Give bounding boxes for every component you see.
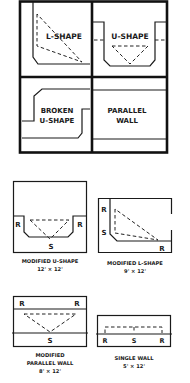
modified-l-shape-plan: R S R MODIFIED L-SHAPE 9' × 12' [99,199,172,275]
u-shape-plan: U-SHAPE [92,22,167,66]
u-counter [14,216,86,237]
kitchen-layouts-diagram: L-SHAPE U-SHAPE BROKEN U-SHAPE PARALLEL … [0,0,190,383]
mark-s: S [47,337,52,345]
mark-s: S [101,229,106,237]
mark-r-left: R [102,337,107,345]
mark-r-right: R [77,221,83,229]
parallel-label-line1: PARALLEL [108,107,147,115]
work-triangle [115,209,158,240]
work-triangle [24,314,76,332]
plan-title: SINGLE WALL [114,355,154,361]
single-wall-plan: R S R SINGLE WALL 5' × 12' [96,316,172,370]
mark-r-left: R [19,300,25,308]
parallel-label-line2: WALL [116,117,138,125]
mark-r-right: R [159,337,164,345]
mark-s: S [132,337,137,345]
broken-u-label-line1: BROKEN [41,107,74,115]
u-shape-counter [92,22,167,66]
l-shape-plan: L-SHAPE [33,2,90,64]
mark-s: S [48,243,53,251]
broken-u-shape-plan: BROKEN U-SHAPE [22,89,90,138]
modified-u-shape-plan: R R S MODIFIED U-SHAPE 12' × 12' [14,182,87,273]
plan-dimensions: 9' × 12' [124,268,146,274]
plan-dimensions: 8' × 12' [39,368,61,374]
mark-r-left: R [15,221,21,229]
plan-title-line2: PARALLEL WALL [27,360,74,366]
u-shape-label: U-SHAPE [111,32,148,41]
mark-r-bottom: R [159,245,165,253]
mark-r-right: R [74,300,80,308]
work-triangle [30,220,69,239]
plan-title-line1: MODIFIED [35,352,65,358]
mark-r-top: R [101,206,107,214]
plan-title: MODIFIED U-SHAPE [22,258,79,264]
parallel-wall-plan: PARALLEL WALL [93,90,166,139]
work-triangle [112,46,148,64]
plan-dimensions: 12' × 12' [37,266,63,272]
plan-title: MODIFIED L-SHAPE [107,260,163,266]
top-grid [20,1,167,153]
modified-parallel-wall-plan: R R S MODIFIED PARALLEL WALL 8' × 12' [12,297,88,375]
plan-dimensions: 5' × 12' [123,363,145,369]
l-shape-label: L-SHAPE [46,32,82,41]
l-counter [110,199,171,241]
broken-u-label-line2: U-SHAPE [40,117,75,125]
